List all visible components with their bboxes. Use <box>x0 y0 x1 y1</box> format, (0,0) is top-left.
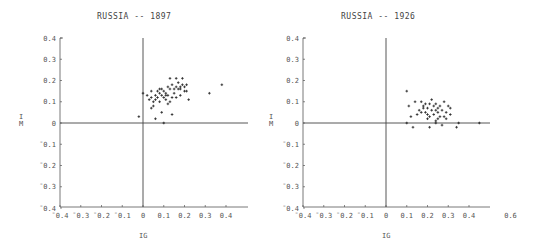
chart-panel-1926: RUSSIA -- 1926 0.40.30.20.10¯0.1¯0.2¯0.3… <box>269 0 538 248</box>
svg-text:0.1: 0.1 <box>157 212 170 220</box>
svg-text:¯0.3: ¯0.3 <box>72 212 89 220</box>
svg-text:0.2: 0.2 <box>421 212 434 220</box>
svg-text:0.1: 0.1 <box>400 212 413 220</box>
svg-text:0.2: 0.2 <box>178 212 191 220</box>
svg-text:¯0.1: ¯0.1 <box>282 141 299 149</box>
y-axis-label: I M <box>17 114 25 128</box>
svg-text:0.4: 0.4 <box>286 35 299 43</box>
scatter-plot-1897: 0.40.30.20.10¯0.1¯0.2¯0.3¯0.4¯0.4¯0.3¯0.… <box>0 0 269 248</box>
svg-text:¯0.2: ¯0.2 <box>93 212 110 220</box>
svg-text:0.4: 0.4 <box>43 35 56 43</box>
x-axis-label: IG <box>382 232 390 240</box>
svg-text:¯0.4: ¯0.4 <box>295 212 312 220</box>
svg-text:¯0.1: ¯0.1 <box>39 141 56 149</box>
chart-panel-1897: RUSSIA -- 1897 0.40.30.20.10¯0.1¯0.2¯0.3… <box>0 0 269 248</box>
y-axis-label: I M <box>267 114 275 128</box>
svg-text:0.6: 0.6 <box>504 212 517 220</box>
svg-text:0.3: 0.3 <box>199 212 212 220</box>
svg-text:0: 0 <box>141 212 145 220</box>
svg-text:0: 0 <box>384 212 388 220</box>
svg-text:¯0.3: ¯0.3 <box>282 183 299 191</box>
svg-text:¯0.2: ¯0.2 <box>39 162 56 170</box>
svg-text:¯0.2: ¯0.2 <box>282 162 299 170</box>
svg-text:¯0.3: ¯0.3 <box>315 212 332 220</box>
svg-text:0.1: 0.1 <box>43 98 56 106</box>
y-axis-label-bottom: M <box>267 121 275 128</box>
svg-text:0: 0 <box>295 120 299 128</box>
svg-text:0.1: 0.1 <box>286 98 299 106</box>
scatter-plot-1926: 0.40.30.20.10¯0.1¯0.2¯0.3¯0.4¯0.4¯0.3¯0.… <box>269 0 538 248</box>
svg-text:0.2: 0.2 <box>43 77 56 85</box>
svg-text:¯0.1: ¯0.1 <box>357 212 374 220</box>
y-axis-label-bottom: M <box>17 121 25 128</box>
svg-text:0.4: 0.4 <box>220 212 233 220</box>
svg-text:0.3: 0.3 <box>442 212 455 220</box>
svg-text:0.3: 0.3 <box>286 56 299 64</box>
svg-text:¯0.1: ¯0.1 <box>114 212 131 220</box>
svg-text:¯0.4: ¯0.4 <box>52 212 69 220</box>
svg-text:0.2: 0.2 <box>286 77 299 85</box>
svg-text:0.3: 0.3 <box>43 56 56 64</box>
svg-text:0.4: 0.4 <box>463 212 476 220</box>
svg-text:0: 0 <box>52 120 56 128</box>
svg-text:¯0.2: ¯0.2 <box>336 212 353 220</box>
svg-text:¯0.3: ¯0.3 <box>39 183 56 191</box>
x-axis-label: IG <box>139 232 147 240</box>
